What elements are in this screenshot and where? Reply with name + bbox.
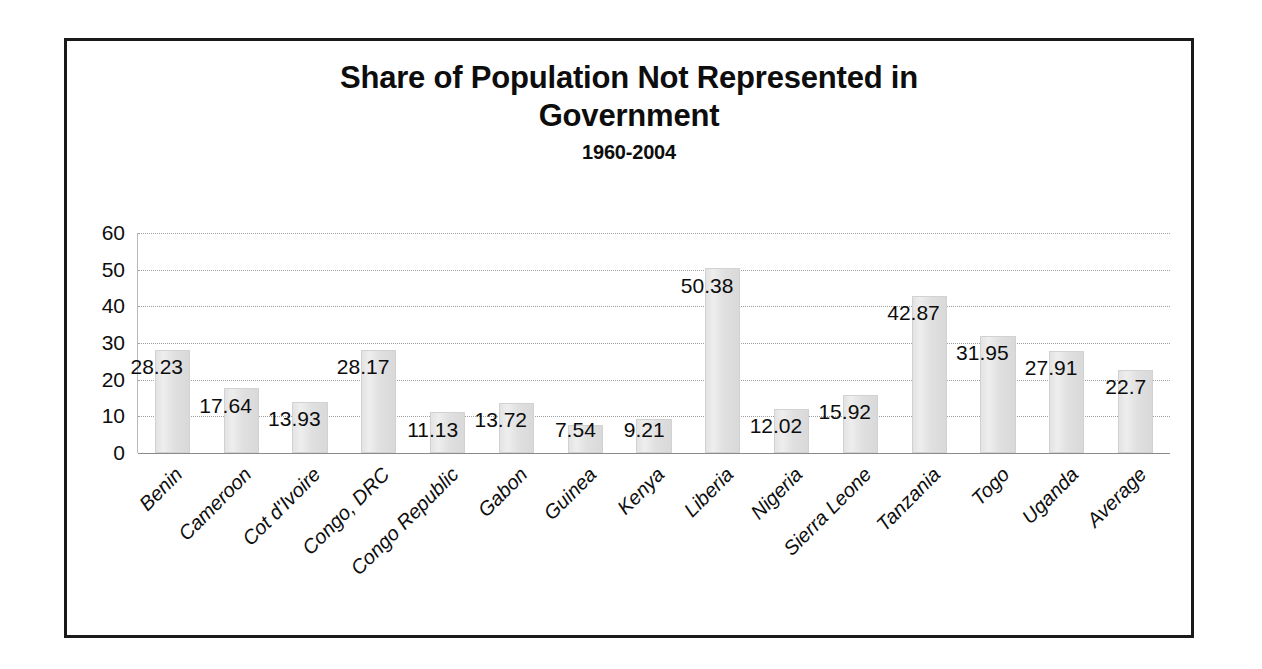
chart-title: Share of Population Not Represented in G…: [67, 59, 1191, 135]
bar-slot[interactable]: 12.02: [757, 233, 826, 453]
bar-slot[interactable]: 13.72: [482, 233, 551, 453]
x-axis-slot: Congo Republic: [412, 457, 481, 627]
bar-data-label: 9.21: [624, 418, 665, 442]
bar-slot[interactable]: 42.87: [895, 233, 964, 453]
bar-slot[interactable]: 11.13: [413, 233, 482, 453]
bar-slot[interactable]: 9.21: [620, 233, 689, 453]
x-axis-slot: Togo: [963, 457, 1032, 627]
chart-subtitle: 1960-2004: [67, 141, 1191, 164]
bar-data-label: 28.23: [130, 355, 183, 379]
bar-data-label: 31.95: [956, 341, 1009, 365]
bar-slot[interactable]: 17.64: [207, 233, 276, 453]
bar-data-label: 7.54: [555, 418, 596, 442]
x-axis-category-label: Gabon: [473, 463, 532, 522]
bar-series: 28.2317.6413.9328.1711.1313.727.549.2150…: [138, 233, 1170, 453]
x-axis-slot: Sierra Leone: [826, 457, 895, 627]
bar-data-label: 13.72: [474, 408, 527, 432]
x-axis-slot: Kenya: [619, 457, 688, 627]
plot-wrap: 6050403020100 28.2317.6413.9328.1711.131…: [67, 233, 1191, 633]
x-axis-category-label: Benin: [135, 463, 187, 515]
bar-data-label: 11.13: [407, 418, 458, 442]
x-axis-slot: Gabon: [481, 457, 550, 627]
bar-slot[interactable]: 28.17: [344, 233, 413, 453]
chart-title-line-2: Government: [197, 97, 1061, 135]
bar-slot[interactable]: 13.93: [276, 233, 345, 453]
y-axis-tick-label: 30: [102, 331, 125, 355]
chart-title-line-1: Share of Population Not Represented in: [197, 59, 1061, 97]
bar-data-label: 42.87: [887, 301, 940, 325]
axis-baseline: [138, 453, 1170, 454]
bar-slot[interactable]: 22.7: [1101, 233, 1170, 453]
x-axis-category-label: Togo: [967, 463, 1014, 510]
x-axis-category-label: Kenya: [613, 463, 669, 519]
y-axis-tick-label: 40: [102, 294, 125, 318]
title-block: Share of Population Not Represented in G…: [67, 59, 1191, 164]
bar-data-label: 17.64: [199, 394, 252, 418]
bar-data-label: 22.7: [1105, 375, 1146, 399]
bar-data-label: 50.38: [681, 274, 734, 298]
x-axis: BeninCameroonCot d'IvoireCongo, DRCCongo…: [137, 457, 1170, 627]
x-axis-slot: Average: [1101, 457, 1170, 627]
bar-slot[interactable]: 15.92: [826, 233, 895, 453]
plot-area: 28.2317.6413.9328.1711.1313.727.549.2150…: [137, 233, 1170, 453]
x-axis-slot: Cameroon: [206, 457, 275, 627]
bar-slot[interactable]: 28.23: [138, 233, 207, 453]
y-axis-tick-label: 20: [102, 368, 125, 392]
bar-data-label: 15.92: [818, 400, 871, 424]
x-axis-slot: Tanzania: [894, 457, 963, 627]
x-axis-slot: Liberia: [688, 457, 757, 627]
bar-data-label: 13.93: [268, 407, 321, 431]
x-axis-slot: Uganda: [1032, 457, 1101, 627]
bar-data-label: 27.91: [1025, 356, 1078, 380]
y-axis: 6050403020100: [67, 233, 133, 453]
bar-data-label: 28.17: [337, 355, 390, 379]
y-axis-tick-label: 50: [102, 258, 125, 282]
x-axis-category-label: Liberia: [680, 463, 739, 522]
bar-slot[interactable]: 7.54: [551, 233, 620, 453]
x-axis-slot: Benin: [137, 457, 206, 627]
chart-card: Share of Population Not Represented in G…: [64, 38, 1194, 638]
y-axis-tick-label: 0: [113, 441, 125, 465]
x-axis-slot: Guinea: [550, 457, 619, 627]
bar-slot[interactable]: 50.38: [688, 233, 757, 453]
y-axis-tick-label: 10: [102, 404, 125, 428]
bar-data-label: 12.02: [750, 414, 803, 438]
bar-slot[interactable]: 31.95: [964, 233, 1033, 453]
bar-slot[interactable]: 27.91: [1032, 233, 1101, 453]
y-axis-tick-label: 60: [102, 221, 125, 245]
